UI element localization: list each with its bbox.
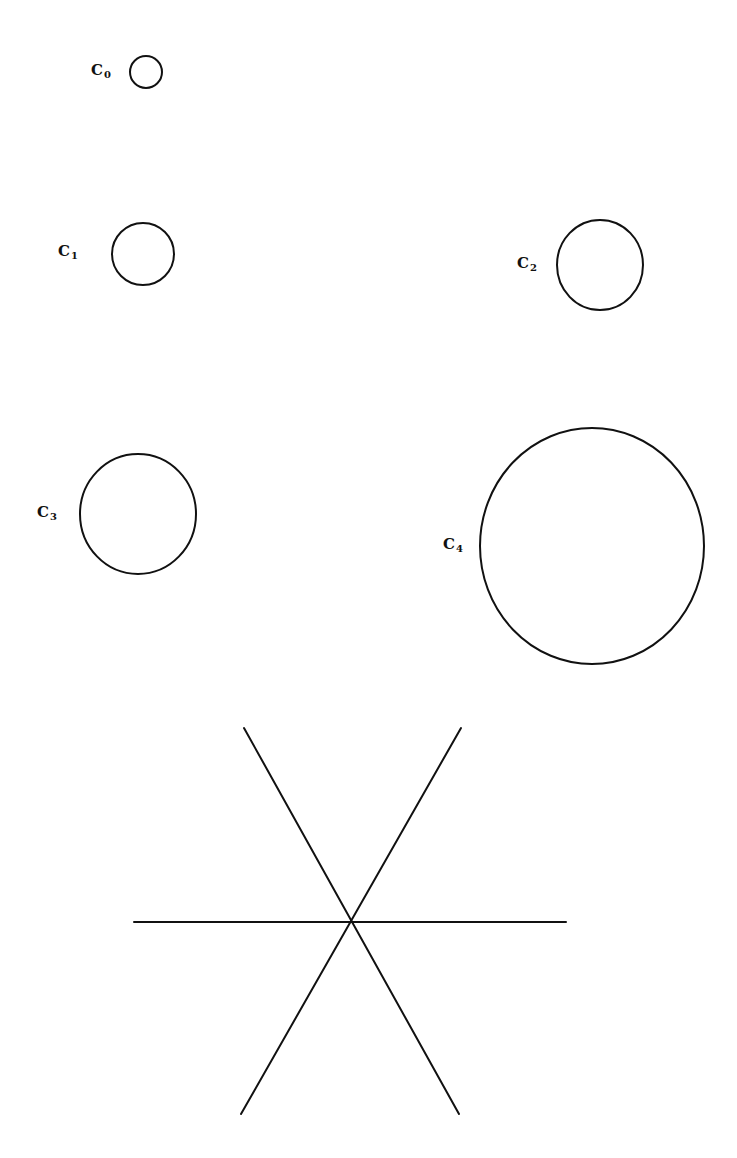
circle-c4 <box>480 428 704 664</box>
figure-caption <box>20 1148 720 1158</box>
circle-c3 <box>80 454 196 574</box>
circle-label-c1: C1 <box>58 244 78 259</box>
diagram-canvas <box>0 0 737 1158</box>
circle-c1 <box>112 223 174 285</box>
circle-label-c3: C3 <box>37 505 57 520</box>
circle-c0 <box>130 56 162 88</box>
six-ray-star <box>134 728 566 1114</box>
circle-label-subscript: 1 <box>71 250 78 261</box>
circle-label-subscript: 4 <box>456 543 463 554</box>
circle-label-subscript: 0 <box>104 69 111 80</box>
circle-label-c2: C2 <box>517 256 537 271</box>
circle-label-c4: C4 <box>443 537 463 552</box>
circle-label-letter: C <box>443 535 455 553</box>
circle-label-subscript: 2 <box>530 262 537 273</box>
circles-group <box>80 56 704 664</box>
circle-label-letter: C <box>37 503 49 521</box>
circle-label-subscript: 3 <box>50 511 57 522</box>
figure: C0C1C2C3C4 <box>0 0 737 1158</box>
circle-c2 <box>557 220 643 310</box>
circle-label-letter: C <box>91 61 103 79</box>
circle-label-c0: C0 <box>91 63 111 78</box>
circle-label-letter: C <box>58 242 70 260</box>
circle-label-letter: C <box>517 254 529 272</box>
